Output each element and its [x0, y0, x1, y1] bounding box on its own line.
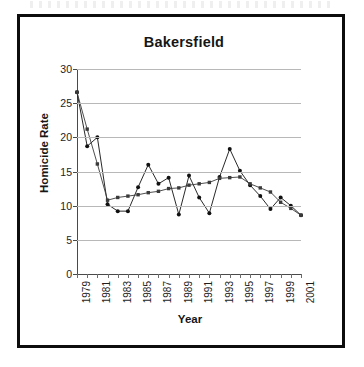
x-tick-label: 2001	[305, 281, 316, 303]
y-tick-mark	[73, 240, 77, 241]
data-point-marker	[238, 175, 241, 178]
data-point-marker	[157, 190, 160, 193]
data-point-marker	[299, 214, 302, 217]
data-point-marker	[228, 176, 231, 179]
x-tick-label: 1985	[142, 281, 153, 303]
data-point-marker	[85, 144, 89, 148]
x-tick-mark	[97, 274, 98, 278]
data-point-marker	[248, 182, 251, 185]
data-point-marker	[187, 183, 190, 186]
x-tick-mark	[138, 274, 139, 278]
data-point-marker	[187, 174, 191, 178]
x-tick-mark	[169, 274, 170, 278]
x-tick-label: 1983	[122, 281, 133, 303]
data-point-marker	[167, 176, 171, 180]
data-point-marker	[147, 191, 150, 194]
data-point-marker	[208, 181, 211, 184]
x-tick-mark	[128, 274, 129, 278]
x-tick-mark	[148, 274, 149, 278]
data-point-marker	[75, 91, 78, 94]
data-point-marker	[85, 127, 88, 130]
data-point-marker	[177, 213, 181, 217]
data-point-marker	[207, 211, 211, 215]
x-tick-mark	[301, 274, 302, 278]
data-point-marker	[228, 147, 232, 151]
x-tick-label: 1987	[162, 281, 173, 303]
y-tick-label: 30	[60, 63, 72, 75]
data-point-marker	[116, 209, 120, 213]
data-point-marker	[279, 195, 283, 199]
x-tick-mark	[209, 274, 210, 278]
x-tick-mark	[118, 274, 119, 278]
y-tick-label: 0	[66, 268, 72, 280]
x-tick-label: 1989	[183, 281, 194, 303]
data-point-marker	[197, 195, 201, 199]
series-line-2	[77, 92, 301, 215]
y-gridline	[77, 240, 301, 241]
y-tick-label: 25	[60, 97, 72, 109]
page-root: Bakersfield Homicide Rate Year 051015202…	[0, 0, 364, 367]
y-axis-title: Homicide Rate	[38, 93, 50, 213]
chart-title: Bakersfield	[20, 34, 348, 50]
x-tick-mark	[77, 274, 78, 278]
plot-region: 0510152025301979198119831985198719891991…	[77, 69, 301, 274]
x-tick-mark	[199, 274, 200, 278]
data-point-marker	[289, 207, 292, 210]
data-point-marker	[258, 194, 262, 198]
y-gridline	[77, 103, 301, 104]
y-tick-mark	[73, 206, 77, 207]
y-tick-label: 15	[60, 166, 72, 178]
data-point-marker	[96, 162, 99, 165]
scan-artifact-strip	[30, 1, 330, 8]
x-tick-mark	[270, 274, 271, 278]
x-tick-label: 1979	[81, 281, 92, 303]
y-tick-label: 20	[60, 131, 72, 143]
x-tick-mark	[260, 274, 261, 278]
x-tick-mark	[108, 274, 109, 278]
data-point-marker	[126, 194, 129, 197]
y-tick-mark	[73, 103, 77, 104]
data-point-marker	[279, 201, 282, 204]
figure-frame: Bakersfield Homicide Rate Year 051015202…	[17, 14, 345, 348]
y-gridline	[77, 206, 301, 207]
data-point-marker	[218, 177, 221, 180]
x-tick-mark	[87, 274, 88, 278]
data-point-marker	[259, 186, 262, 189]
x-tick-label: 1995	[244, 281, 255, 303]
data-point-marker	[197, 182, 200, 185]
x-tick-label: 1991	[203, 281, 214, 303]
x-tick-mark	[189, 274, 190, 278]
data-point-marker	[156, 182, 160, 186]
y-tick-label: 5	[66, 234, 72, 246]
chart-area: Bakersfield Homicide Rate Year 051015202…	[20, 17, 348, 351]
data-point-marker	[106, 199, 109, 202]
data-point-marker	[146, 163, 150, 167]
x-tick-mark	[240, 274, 241, 278]
y-gridline	[77, 172, 301, 173]
y-tick-mark	[73, 137, 77, 138]
x-tick-label: 1993	[224, 281, 235, 303]
x-tick-label: 1997	[264, 281, 275, 303]
data-point-marker	[116, 196, 119, 199]
x-tick-mark	[230, 274, 231, 278]
y-tick-label: 10	[60, 200, 72, 212]
x-tick-mark	[158, 274, 159, 278]
data-point-marker	[136, 193, 139, 196]
data-point-marker	[167, 187, 170, 190]
y-tick-mark	[73, 172, 77, 173]
data-point-marker	[268, 207, 272, 211]
x-tick-mark	[250, 274, 251, 278]
x-tick-mark	[220, 274, 221, 278]
series-line-1	[77, 92, 301, 215]
data-point-marker	[269, 190, 272, 193]
x-axis-title: Year	[60, 313, 320, 325]
data-point-marker	[136, 185, 140, 189]
data-point-marker	[126, 209, 130, 213]
x-tick-label: 1981	[101, 281, 112, 303]
data-point-marker	[177, 186, 180, 189]
y-gridline	[77, 137, 301, 138]
y-gridline	[77, 69, 301, 70]
x-tick-mark	[281, 274, 282, 278]
y-tick-mark	[73, 69, 77, 70]
x-tick-mark	[291, 274, 292, 278]
